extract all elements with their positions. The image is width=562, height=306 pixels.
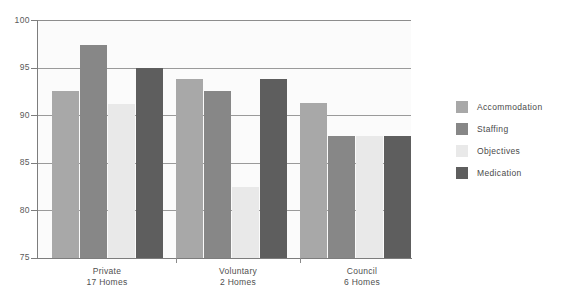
y-axis-label-90: 90 <box>2 111 30 120</box>
bar-council-accommodation <box>300 103 327 258</box>
bar-voluntary-accommodation <box>176 79 203 258</box>
bar-private-accommodation <box>52 91 79 258</box>
category-label-council: Council 6 Homes <box>317 266 407 288</box>
bar-chart: 100 95 90 85 80 75 Private 17 Homes Volu… <box>0 0 562 306</box>
x-axis-line <box>37 258 412 259</box>
legend-label-medication: Medication <box>477 168 522 178</box>
bar-private-objectives <box>108 104 135 258</box>
bar-council-staffing <box>328 136 355 258</box>
bar-voluntary-medication <box>260 79 287 258</box>
category-name-council: Council <box>347 266 377 276</box>
bar-council-objectives <box>356 136 383 258</box>
bar-private-medication <box>136 68 163 258</box>
legend-swatch-staffing <box>456 123 468 135</box>
x-axis-tick-2 <box>300 258 301 263</box>
bar-voluntary-staffing <box>204 91 231 258</box>
legend-swatch-accommodation <box>456 101 468 113</box>
category-sublabel-private: 17 Homes <box>62 277 152 288</box>
legend-label-accommodation: Accommodation <box>477 102 543 112</box>
category-name-private: Private <box>93 266 122 276</box>
y-axis-label-80: 80 <box>2 206 30 215</box>
category-label-private: Private 17 Homes <box>62 266 152 288</box>
legend-label-objectives: Objectives <box>477 146 520 156</box>
legend-item-medication: Medication <box>456 162 543 184</box>
legend-label-staffing: Staffing <box>477 124 508 134</box>
y-axis-labels: 100 95 90 85 80 75 <box>0 0 30 306</box>
category-sublabel-voluntary: 2 Homes <box>193 277 283 288</box>
category-label-voluntary: Voluntary 2 Homes <box>193 266 283 288</box>
category-name-voluntary: Voluntary <box>219 266 257 276</box>
plot-area <box>37 20 411 258</box>
legend-swatch-medication <box>456 167 468 179</box>
bar-private-staffing <box>80 45 107 258</box>
category-sublabel-council: 6 Homes <box>317 277 407 288</box>
bar-council-medication <box>384 136 411 258</box>
bar-voluntary-objectives <box>232 187 259 258</box>
y-axis-label-85: 85 <box>2 158 30 167</box>
legend-swatch-objectives <box>456 145 468 157</box>
y-axis-label-100: 100 <box>2 16 30 25</box>
legend-item-staffing: Staffing <box>456 118 543 140</box>
legend-item-accommodation: Accommodation <box>456 96 543 118</box>
gridline-100 <box>37 20 411 21</box>
y-axis-line <box>37 20 38 259</box>
legend: Accommodation Staffing Objectives Medica… <box>456 96 543 184</box>
legend-item-objectives: Objectives <box>456 140 543 162</box>
x-axis-tick-1 <box>176 258 177 263</box>
y-axis-label-75: 75 <box>2 253 30 262</box>
y-axis-label-95: 95 <box>2 63 30 72</box>
